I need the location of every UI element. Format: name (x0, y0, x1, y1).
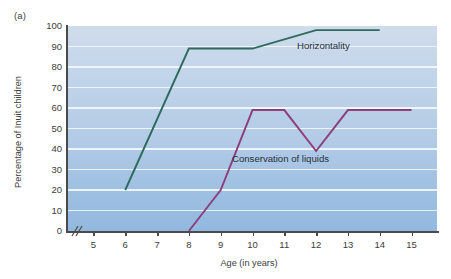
series-label-horizontality: Horizontality (297, 40, 350, 51)
line-conservation (189, 110, 412, 231)
series-label-conservation: Conservation of liquids (232, 153, 329, 164)
series-lines (0, 0, 451, 279)
figure-panel-a: (a) Percentage of Inuit children 0102030… (0, 0, 451, 279)
x-axis-title: Age (in years) (60, 258, 438, 268)
